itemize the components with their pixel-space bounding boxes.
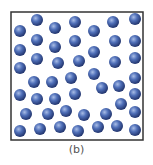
particle-sphere bbox=[34, 123, 46, 135]
particle-sphere bbox=[73, 55, 85, 67]
particle-sphere bbox=[49, 22, 61, 34]
particle-sphere bbox=[115, 98, 127, 110]
particle-sphere bbox=[129, 35, 141, 47]
particle-sphere bbox=[28, 76, 40, 88]
particle-sphere bbox=[31, 34, 43, 46]
particle-sphere bbox=[31, 53, 43, 65]
particle-sphere bbox=[65, 72, 77, 84]
particle-sphere bbox=[100, 108, 112, 120]
particle-sphere bbox=[111, 120, 123, 132]
particle-sphere bbox=[14, 25, 26, 37]
particle-sphere bbox=[69, 16, 81, 28]
particle-sphere bbox=[69, 35, 81, 47]
particle-sphere bbox=[107, 16, 119, 28]
particle-sphere bbox=[49, 93, 61, 105]
particle-sphere bbox=[46, 76, 58, 88]
particle-diagram bbox=[0, 0, 153, 165]
particle-sphere bbox=[31, 14, 43, 26]
particle-sphere bbox=[129, 106, 141, 118]
particle-sphere bbox=[49, 41, 61, 53]
particle-sphere bbox=[54, 121, 66, 133]
particle-sphere bbox=[14, 125, 26, 137]
particle-sphere bbox=[113, 80, 125, 92]
particle-sphere bbox=[88, 68, 100, 80]
particle-sphere bbox=[14, 44, 26, 56]
particle-sphere bbox=[129, 52, 141, 64]
particle-sphere bbox=[72, 125, 84, 137]
particle-sphere bbox=[129, 88, 141, 100]
particle-sphere bbox=[109, 35, 121, 47]
particle-sphere bbox=[129, 124, 141, 136]
particle-sphere bbox=[129, 72, 141, 84]
particle-sphere bbox=[96, 82, 108, 94]
particle-sphere bbox=[88, 46, 100, 58]
particle-sphere bbox=[129, 13, 141, 25]
particle-sphere bbox=[88, 25, 100, 37]
particle-sphere bbox=[20, 108, 32, 120]
container-box bbox=[11, 12, 143, 140]
particle-sphere bbox=[92, 121, 104, 133]
particle-sphere bbox=[109, 56, 121, 68]
particle-sphere bbox=[31, 93, 43, 105]
particle-sphere bbox=[42, 108, 54, 120]
particle-sphere bbox=[69, 88, 81, 100]
figure-caption: (b) bbox=[0, 143, 153, 156]
particle-sphere bbox=[52, 57, 64, 69]
particle-sphere bbox=[78, 109, 90, 121]
particle-sphere bbox=[14, 62, 26, 74]
particle-sphere bbox=[14, 89, 26, 101]
particle-sphere bbox=[60, 105, 72, 117]
